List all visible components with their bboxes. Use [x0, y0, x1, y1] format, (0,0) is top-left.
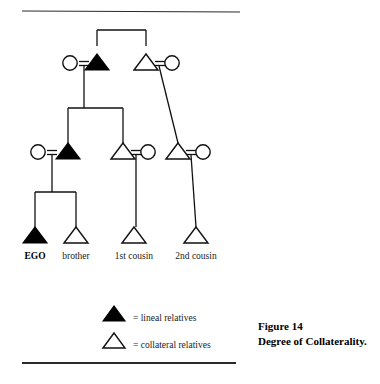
male-symbol-lineal	[56, 143, 80, 159]
male-symbol-collateral	[184, 227, 208, 243]
figure-container: EGObrother1st cousin2nd cousin = lineal …	[0, 0, 380, 384]
node-label-brother: brother	[62, 251, 90, 261]
legend-collateral-label: = collateral relatives	[133, 340, 211, 350]
male-symbol-collateral	[64, 227, 88, 243]
legend-collateral-symbol	[103, 333, 125, 348]
node-label-second-cousin: 2nd cousin	[175, 251, 217, 261]
node-label-first-cousin: 1st cousin	[115, 251, 154, 261]
male-symbol-collateral	[122, 227, 146, 243]
kinship-diagram: EGObrother1st cousin2nd cousin = lineal …	[0, 0, 380, 384]
female-symbol-collateral	[31, 145, 45, 159]
legend-lineal-symbol	[103, 306, 125, 321]
female-symbol-collateral	[165, 56, 179, 70]
figure-caption: Degree of Collaterality.	[258, 335, 367, 347]
kin-labels: EGObrother1st cousin2nd cousin	[24, 251, 217, 261]
legend-lineal-label: = lineal relatives	[133, 313, 197, 323]
legend: = lineal relatives= collateral relatives	[103, 306, 211, 350]
female-symbol-collateral	[141, 145, 155, 159]
male-symbol-collateral	[134, 54, 158, 70]
figure-number: Figure 14	[258, 320, 303, 332]
descent-line-diagonal	[191, 155, 196, 227]
descent-line-diagonal	[159, 66, 178, 143]
top-rule	[22, 11, 240, 12]
horizontal-rules	[22, 11, 240, 363]
female-symbol-collateral	[63, 56, 77, 70]
male-symbol-lineal	[23, 227, 47, 243]
kin-symbols	[23, 54, 210, 243]
node-label-ego-lineal: EGO	[24, 251, 45, 261]
female-symbol-collateral	[196, 145, 210, 159]
